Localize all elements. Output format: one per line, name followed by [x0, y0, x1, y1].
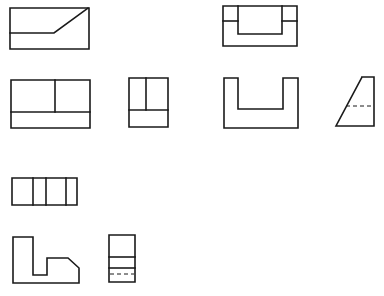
outline-line — [224, 78, 298, 128]
view-9-tall-rect — [109, 235, 135, 282]
orthographic-drawing — [0, 0, 384, 296]
outline-line — [336, 77, 374, 126]
view-4-side-rect — [129, 78, 168, 127]
outline-line — [10, 8, 89, 49]
outline-line — [12, 178, 77, 205]
drawing-canvas — [0, 0, 384, 296]
view-2-notched-top — [223, 6, 297, 46]
view-3-front-rect — [11, 80, 90, 128]
view-5-u-channel — [224, 78, 298, 128]
outline-line — [129, 78, 168, 127]
outline-line — [238, 6, 282, 34]
view-6-trapezoid — [336, 77, 374, 126]
outline-line — [223, 6, 297, 46]
view-7-segmented-rect — [12, 178, 77, 205]
outline-line — [11, 80, 90, 128]
view-8-l-profile — [13, 237, 79, 283]
outline-line — [13, 237, 79, 283]
outline-line — [10, 8, 88, 33]
outline-line — [109, 235, 135, 282]
view-1-slanted-rect — [10, 8, 89, 49]
